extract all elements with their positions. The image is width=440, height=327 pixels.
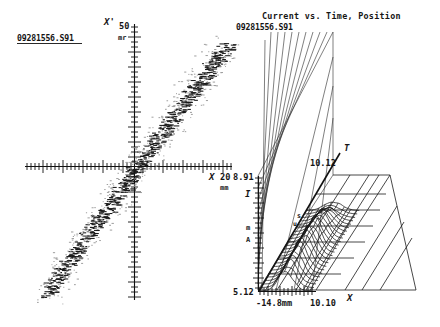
- right-vertical-axis-unit-bottom: A: [246, 236, 251, 244]
- right-depth-axis-symbol: T: [344, 143, 350, 153]
- left-y-axis-unit: mr: [118, 34, 126, 42]
- right-vertical-axis-min: 5.12: [233, 287, 254, 297]
- waterfall-rib: [259, 210, 306, 291]
- left-file-label: 09281556.S91: [17, 33, 74, 43]
- right-depth-axis-unit-top: s: [297, 212, 301, 220]
- right-vertical-axis-symbol: I: [245, 189, 251, 199]
- left-panel-scatter: 09281556.S91 X' 50 mr X 20 mm: [17, 17, 239, 305]
- right-vertical-axis-unit-top: m: [246, 224, 250, 232]
- right-x-axis-max-label: 10.10: [310, 298, 336, 308]
- scatter-point-cloud: [37, 36, 239, 305]
- right-x-axis-min-label: -14.8mm: [256, 298, 292, 308]
- right-panel-waterfall: Current vs. Time, Position 09281556.S91: [233, 11, 416, 308]
- left-y-axis-symbol: X': [103, 17, 115, 27]
- left-x-axis-max: 20: [220, 172, 230, 182]
- right-vertical-axis-max: 8.91: [233, 172, 254, 182]
- right-file-label: 09281556.S91: [236, 22, 293, 32]
- right-x-axis-symbol: X: [346, 293, 353, 303]
- right-panel-title: Current vs. Time, Position: [262, 11, 401, 21]
- left-x-axis-unit: mm: [220, 184, 228, 192]
- left-x-axis-symbol: X: [208, 172, 215, 182]
- left-y-axis-max: 50: [119, 21, 129, 31]
- figure-canvas: 09281556.S91 X' 50 mr X 20 mm: [0, 0, 440, 327]
